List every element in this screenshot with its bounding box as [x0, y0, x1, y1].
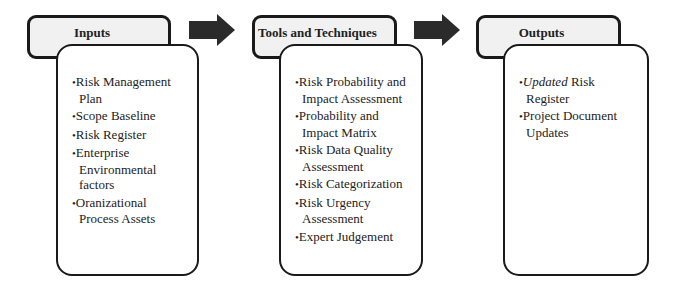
list-item: Risk Management Plan: [72, 74, 189, 106]
list-item: Scope Baseline: [72, 108, 189, 125]
list-item: Probability and Impact Matrix: [295, 108, 413, 140]
outputs-title: Outputs: [479, 25, 604, 41]
outputs-box: Updated Risk Register Project Document U…: [503, 44, 649, 276]
list-item: Risk Categorization: [295, 176, 413, 193]
list-item: Risk Urgency Assessment: [295, 195, 413, 227]
inputs-list: Risk Management Plan Scope Baseline Risk…: [72, 74, 189, 227]
list-item: Risk Data Quality Assessment: [295, 142, 413, 174]
inputs-title: Inputs: [30, 25, 154, 41]
list-item: Enterprise Environmental factors: [72, 145, 189, 193]
list-item: Project Document Updates: [519, 108, 639, 140]
updated-emphasis: Updated: [523, 74, 568, 89]
tools-list: Risk Probability and Impact Assessment P…: [295, 74, 413, 245]
list-item: Expert Judgement: [295, 229, 413, 246]
inputs-box: Risk Management Plan Scope Baseline Risk…: [56, 44, 199, 276]
right-arrow-icon: [414, 14, 460, 46]
tools-title: Tools and Techniques: [255, 25, 380, 41]
list-item: Updated Risk Register: [519, 74, 639, 106]
right-arrow-icon: [189, 14, 235, 46]
list-item: Oranizational Process Assets: [72, 195, 189, 227]
list-item: Risk Register: [72, 127, 189, 144]
tools-box: Risk Probability and Impact Assessment P…: [279, 44, 423, 276]
list-item: Risk Probability and Impact Assessment: [295, 74, 413, 106]
outputs-list: Updated Risk Register Project Document U…: [519, 74, 639, 140]
